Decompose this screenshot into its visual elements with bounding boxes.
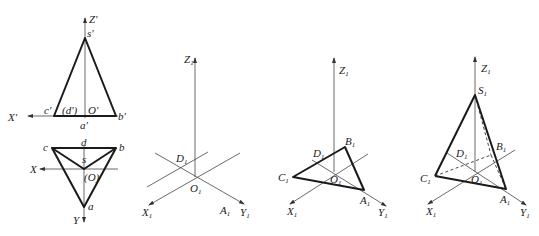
base-triangle-panel: Z1 B1 D1 C1 O1 X1 A1 Y1 xyxy=(278,58,388,220)
label-y1: Y1 xyxy=(378,206,388,220)
y1-axis xyxy=(155,153,244,204)
axonometric-construction-diagram: Z' s' c' (d') O' b' a' X' c d b s (O) a … xyxy=(0,0,539,236)
label-c: c xyxy=(43,141,48,153)
y1-axis xyxy=(447,153,526,205)
label-s-prime: s' xyxy=(87,27,94,39)
label-y: Y xyxy=(73,214,81,226)
label-s: s xyxy=(82,153,86,165)
label-x1: X1 xyxy=(141,206,152,220)
label-x1: X1 xyxy=(425,205,436,219)
label-a1: A1 xyxy=(359,194,370,208)
label-o1: O1 xyxy=(330,173,341,187)
label-z-prime: Z' xyxy=(89,13,98,25)
label-d1: D1 xyxy=(455,147,467,161)
label-d1: D1 xyxy=(175,152,187,166)
label-y1: Y1 xyxy=(240,206,250,220)
label-x1: X1 xyxy=(286,205,297,219)
label-o1: O1 xyxy=(190,182,201,196)
label-z1: Z1 xyxy=(339,64,349,78)
label-d: d xyxy=(81,136,87,148)
axonometric-axes-panel: Z1 D1 O1 X1 A1 Y1 xyxy=(141,53,250,220)
label-z1: Z1 xyxy=(184,53,194,67)
label-a1: A1 xyxy=(219,204,230,218)
label-a-prime: a' xyxy=(80,119,89,131)
front-view: Z' s' c' (d') O' b' a' X' xyxy=(7,13,127,131)
top-view: c d b s (O) a X Y xyxy=(29,136,125,226)
label-c1: C1 xyxy=(278,171,289,185)
label-s1: S1 xyxy=(478,84,487,98)
label-origin: (O) xyxy=(84,171,100,184)
label-c1: C1 xyxy=(420,172,431,186)
label-x: X xyxy=(29,163,38,175)
label-b1: B1 xyxy=(345,135,355,149)
base-triangle xyxy=(293,147,364,190)
pyramid-panel: Z1 S1 B1 D1 C1 O1 X1 A1 Y1 xyxy=(420,57,530,220)
label-b1: B1 xyxy=(496,140,506,154)
x1-axis xyxy=(149,153,240,205)
label-d-prime: (d') xyxy=(62,104,78,117)
label-y1: Y1 xyxy=(520,206,530,220)
label-x-prime: X' xyxy=(7,111,18,123)
label-o-prime: O' xyxy=(88,104,99,116)
label-c-prime: c' xyxy=(44,104,52,116)
label-z1: Z1 xyxy=(481,62,491,76)
label-a1: A1 xyxy=(499,193,510,207)
label-d1: D1 xyxy=(312,147,324,161)
label-b-prime: b' xyxy=(118,110,127,122)
label-b: b xyxy=(119,141,125,153)
label-a: a xyxy=(88,200,94,212)
